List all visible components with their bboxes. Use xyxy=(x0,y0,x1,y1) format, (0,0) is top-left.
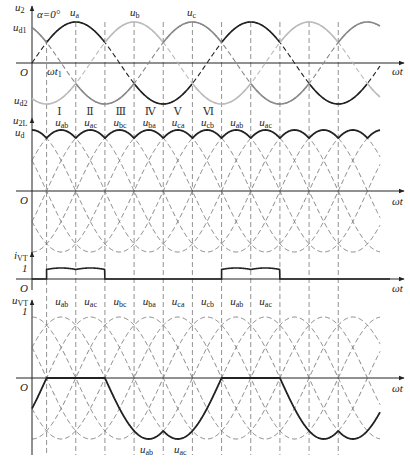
bottom-label-uac: uac xyxy=(174,444,187,457)
phase-label-a: ua xyxy=(70,7,79,20)
x-axis-label: ωt xyxy=(392,66,403,77)
ud1-label: ud1 xyxy=(13,22,27,35)
origin-label: O xyxy=(20,195,28,206)
uvt-interval-label-ab: uab xyxy=(55,296,68,309)
uvt-interval-label-ca: uca xyxy=(172,296,185,309)
uvt-interval-label-ac: uac xyxy=(259,296,272,309)
interval-label-ba: uba xyxy=(143,117,156,130)
wt1-label: ωt1 xyxy=(47,66,62,79)
x-axis-label: ωt xyxy=(392,283,403,294)
y-axis-label-u2: u2 xyxy=(15,2,25,15)
alpha-label: α=0° xyxy=(37,9,60,20)
x-axis-label: ωt xyxy=(392,383,403,394)
origin-label: O xyxy=(20,283,28,294)
uvt-interval-label-cb: ucb xyxy=(201,296,214,309)
interval-label-ab: uab xyxy=(230,117,243,130)
origin-label: O xyxy=(20,67,28,78)
thyristor-voltage-uvt xyxy=(32,378,380,439)
commutation-gridlines xyxy=(47,22,339,455)
uvt-interval-label-ba: uba xyxy=(143,296,156,309)
phase-label-c: uc xyxy=(187,7,196,20)
uvt-interval-label-ab: uab xyxy=(230,296,243,309)
uvt-interval-label-bc: ubc xyxy=(114,296,127,309)
interval-label-ac: uac xyxy=(84,117,97,130)
interval-label-ac: uac xyxy=(259,117,272,130)
thyristor-current-ivt xyxy=(32,268,390,279)
origin-label: O xyxy=(20,382,28,393)
interval-label-ab: uab xyxy=(55,117,68,130)
uvt-interval-label-ac: uac xyxy=(84,296,97,309)
phase-label-b: ub xyxy=(130,7,140,20)
x-axis-label: ωt xyxy=(392,196,403,207)
interval-label-bc: ubc xyxy=(114,117,127,130)
axes xyxy=(16,6,404,455)
output-voltage-ud xyxy=(32,130,380,138)
level-1-label: 1 xyxy=(22,263,28,274)
ud2-label: ud2 xyxy=(14,95,28,108)
interval-label-cb: ucb xyxy=(201,117,214,130)
interval-label-ca: uca xyxy=(172,117,185,130)
level-1-label: 1 xyxy=(22,306,28,317)
waveform-curves xyxy=(32,22,390,439)
bottom-label-uab: uab xyxy=(140,444,153,457)
ud-label: ud xyxy=(15,127,25,140)
